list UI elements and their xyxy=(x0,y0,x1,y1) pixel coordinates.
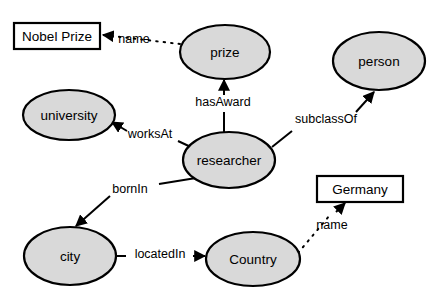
knowledge-graph-diagram: Nobel Prize (dotted, arrow at box) --> n… xyxy=(0,0,436,298)
edge-label-subclassof: subclassOf xyxy=(295,112,357,126)
edge-line-upper xyxy=(112,122,127,131)
edge-line-lower xyxy=(272,131,292,147)
edge-arrowhead xyxy=(336,203,345,212)
node-label-university: university xyxy=(40,108,97,123)
node-label-person: person xyxy=(358,54,399,69)
node-country[interactable]: Country xyxy=(206,232,300,286)
node-label-researcher: researcher xyxy=(197,153,262,168)
edge-prize-name-nobel-prize: name xyxy=(103,32,180,46)
node-label-country: Country xyxy=(229,252,277,267)
node-university[interactable]: university xyxy=(23,90,115,140)
edge-city-locatedin-country: locatedIn xyxy=(116,247,205,261)
edge-label-worksat: worksAt xyxy=(127,127,173,141)
edge-researcher-bornin-city: bornIn xyxy=(76,178,196,226)
edge-label-name-country: name xyxy=(316,218,347,232)
node-person[interactable]: person xyxy=(333,32,425,90)
node-label-nobel-prize: Nobel Prize xyxy=(22,29,92,44)
edge-arrowhead xyxy=(103,35,112,36)
edge-line-lower xyxy=(76,196,110,226)
edge-researcher-worksat-university: worksAt xyxy=(112,122,193,148)
node-germany[interactable]: Germany xyxy=(317,176,403,202)
node-label-city: city xyxy=(60,249,81,264)
edge-country-name-germany: name xyxy=(298,203,348,253)
node-label-germany: Germany xyxy=(332,182,388,197)
edge-label-bornin: bornIn xyxy=(112,182,147,196)
edge-label-locatedin: locatedIn xyxy=(135,247,186,261)
edge-researcher-hasaward-prize: hasAward xyxy=(195,80,250,133)
graph-canvas: Nobel Prize (dotted, arrow at box) --> n… xyxy=(0,0,436,298)
edge-label-name-prize: name xyxy=(118,32,149,46)
node-nobel-prize[interactable]: Nobel Prize xyxy=(14,23,100,49)
edge-researcher-subclassof-person: subclassOf xyxy=(272,92,374,147)
node-city[interactable]: city xyxy=(24,227,116,285)
node-prize[interactable]: prize xyxy=(180,25,270,79)
node-researcher[interactable]: researcher xyxy=(183,132,275,188)
edge-line-upper xyxy=(159,178,196,184)
edge-label-hasaward: hasAward xyxy=(195,95,250,109)
edge-line-upper xyxy=(356,92,374,112)
node-label-prize: prize xyxy=(210,45,239,60)
